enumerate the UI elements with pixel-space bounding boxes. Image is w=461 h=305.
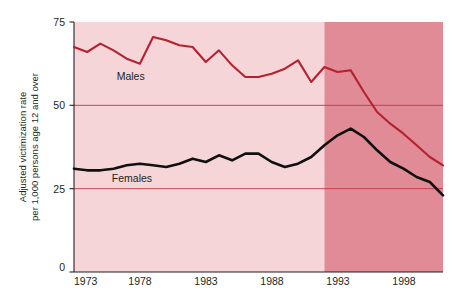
y-axis-title-line1: Adjusted victimization rate — [17, 92, 28, 202]
y-axis-title: Adjusted victimization rate per 1,000 pe… — [17, 73, 40, 221]
x-tick-label-1993: 1993 — [326, 275, 350, 287]
shaded-band-dark — [324, 22, 443, 272]
shaded-band-light — [74, 22, 324, 272]
y-tick-label-25: 25 — [53, 183, 65, 195]
x-tick-label-1988: 1988 — [260, 275, 284, 287]
x-tick-label-1973: 1973 — [74, 275, 98, 287]
y-tick-label-75: 75 — [53, 16, 65, 28]
x-tick-label-1983: 1983 — [194, 275, 218, 287]
series-label-females: Females — [112, 172, 152, 184]
y-axis-title-line2: per 1,000 persons age 12 and over — [29, 73, 40, 221]
y-tick-marks — [70, 22, 75, 272]
y-tick-labels: 75 50 25 0 — [53, 16, 65, 273]
x-tick-label-1978: 1978 — [128, 275, 152, 287]
victimization-rate-line-chart: 75 50 25 0 1973 1978 1983 1988 1993 1998… — [0, 0, 461, 305]
y-tick-label-50: 50 — [53, 99, 65, 111]
series-label-males: Males — [117, 70, 145, 82]
y-tick-label-0: 0 — [59, 261, 65, 273]
x-tick-label-1998: 1998 — [392, 275, 416, 287]
chart-figure: 75 50 25 0 1973 1978 1983 1988 1993 1998… — [0, 0, 461, 305]
x-tick-labels: 1973 1978 1983 1988 1993 1998 — [74, 275, 416, 287]
